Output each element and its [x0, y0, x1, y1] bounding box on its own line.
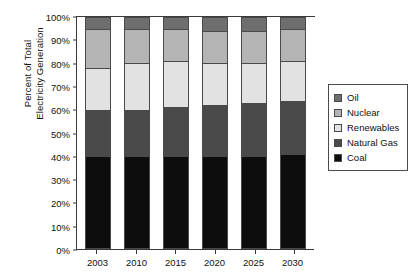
- y-tick-label: 0%: [30, 245, 70, 256]
- bar-column[interactable]: [202, 17, 228, 249]
- legend-item[interactable]: Renewables: [334, 120, 403, 135]
- legend-swatch-icon: [334, 139, 342, 147]
- y-tick-label: 60%: [30, 105, 70, 116]
- chart-legend: OilNuclearRenewablesNatural GasCoal: [328, 84, 408, 171]
- bar-segment[interactable]: [241, 103, 267, 156]
- legend-item[interactable]: Natural Gas: [334, 135, 403, 150]
- bar-segment[interactable]: [163, 107, 189, 156]
- bar-segment[interactable]: [85, 29, 111, 68]
- y-tick-label: 50%: [30, 128, 70, 139]
- y-tick-label: 40%: [30, 151, 70, 162]
- y-tick-label: 30%: [30, 175, 70, 186]
- bar-segment[interactable]: [280, 101, 306, 154]
- y-tick-label: 90%: [30, 35, 70, 46]
- x-tick-label: 2025: [241, 252, 267, 272]
- bar-segment[interactable]: [280, 29, 306, 61]
- bar-segment[interactable]: [163, 61, 189, 107]
- legend-swatch-icon: [334, 94, 342, 102]
- x-tick-label: 2010: [124, 252, 150, 272]
- bar-segment[interactable]: [202, 63, 228, 105]
- x-tick-label: 2015: [163, 252, 189, 272]
- bar-segment[interactable]: [280, 61, 306, 100]
- bar-segment[interactable]: [202, 31, 228, 63]
- bar-segment[interactable]: [280, 154, 306, 249]
- bar-segment[interactable]: [163, 17, 189, 29]
- bar-segment[interactable]: [124, 17, 150, 29]
- x-tick-label: 2020: [202, 252, 228, 272]
- bar-segment[interactable]: [85, 156, 111, 249]
- legend-label: Natural Gas: [347, 137, 398, 148]
- y-tick-label: 80%: [30, 58, 70, 69]
- bar-column[interactable]: [85, 17, 111, 249]
- bar-segment[interactable]: [202, 156, 228, 249]
- bar-segment[interactable]: [241, 31, 267, 63]
- legend-swatch-icon: [334, 109, 342, 117]
- chart-page: Percent of Total Electricity Generation …: [0, 0, 416, 279]
- legend-swatch-icon: [334, 124, 342, 132]
- legend-swatch-icon: [334, 154, 342, 162]
- bar-segment[interactable]: [85, 110, 111, 156]
- legend-label: Coal: [347, 152, 367, 163]
- bar-column[interactable]: [280, 17, 306, 249]
- x-axis-labels: 200320102015202020252030: [76, 252, 314, 272]
- bar-series-group: [77, 17, 314, 249]
- bar-column[interactable]: [124, 17, 150, 249]
- bar-segment[interactable]: [241, 17, 267, 31]
- legend-item[interactable]: Oil: [334, 90, 403, 105]
- legend-item[interactable]: Coal: [334, 150, 403, 165]
- bar-column[interactable]: [163, 17, 189, 249]
- x-tick-label: 2003: [85, 252, 111, 272]
- x-tick-label: 2030: [280, 252, 306, 272]
- y-tick-label: 70%: [30, 81, 70, 92]
- legend-label: Oil: [347, 92, 359, 103]
- bar-segment[interactable]: [85, 68, 111, 110]
- y-tick-label: 10%: [30, 221, 70, 232]
- bar-segment[interactable]: [241, 63, 267, 102]
- y-tick-label: 100%: [30, 12, 70, 23]
- y-tick-label: 20%: [30, 198, 70, 209]
- bar-segment[interactable]: [124, 63, 150, 109]
- legend-label: Renewables: [347, 122, 399, 133]
- bar-segment[interactable]: [163, 29, 189, 61]
- bar-segment[interactable]: [124, 29, 150, 64]
- bar-segment[interactable]: [202, 17, 228, 31]
- legend-label: Nuclear: [347, 107, 380, 118]
- bar-segment[interactable]: [124, 110, 150, 156]
- bar-column[interactable]: [241, 17, 267, 249]
- bar-segment[interactable]: [124, 156, 150, 249]
- legend-item[interactable]: Nuclear: [334, 105, 403, 120]
- bar-segment[interactable]: [163, 156, 189, 249]
- bar-segment[interactable]: [202, 105, 228, 156]
- plot-area: [76, 17, 314, 250]
- bar-segment[interactable]: [241, 156, 267, 249]
- bar-segment[interactable]: [280, 17, 306, 29]
- bar-segment[interactable]: [85, 17, 111, 29]
